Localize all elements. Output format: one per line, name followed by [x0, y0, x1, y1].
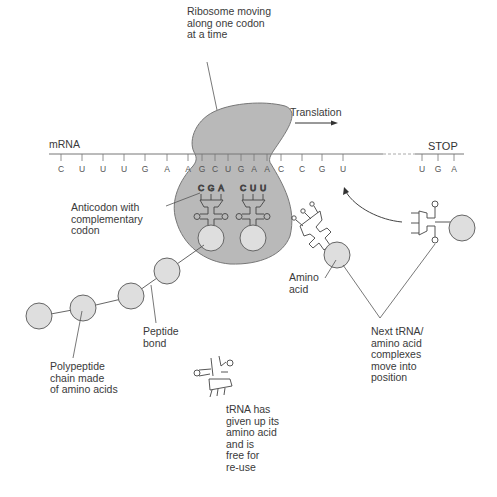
incoming-amino-acid-1	[324, 242, 350, 268]
incoming-trna-tilted	[292, 202, 331, 250]
svg-text:A: A	[164, 164, 170, 174]
incoming-amino-acid-2	[449, 215, 475, 241]
anticodon-label: Anticodon with complementary codon	[71, 202, 143, 237]
next-trna-pointer-left	[343, 265, 380, 318]
svg-text:G: G	[208, 183, 215, 193]
ribosome-label: Ribosome moving along one codon at a tim…	[187, 6, 271, 41]
svg-text:U: U	[260, 183, 266, 193]
ribosome-pointer-line	[207, 62, 217, 110]
mrna-label: mRNA	[49, 139, 80, 151]
translation-diagram: C U U U G A A G C U G A A C C G U U G A …	[0, 0, 497, 497]
svg-text:A: A	[451, 164, 457, 174]
amino-acid-a-site	[240, 225, 266, 251]
movement-arrow	[346, 192, 402, 222]
next-trna-label: Next tRNA/ amino acid complexes move int…	[371, 326, 424, 384]
amino-acid-p-site	[198, 225, 224, 251]
svg-text:C: C	[278, 164, 284, 174]
polypeptide-chain	[26, 245, 204, 329]
ribosome-shape	[174, 103, 292, 264]
svg-text:U: U	[340, 164, 346, 174]
stop-label: STOP	[428, 140, 458, 152]
svg-text:C: C	[212, 164, 218, 174]
svg-text:G: G	[435, 164, 442, 174]
svg-text:G: G	[319, 164, 326, 174]
translation-label: Translation	[290, 107, 342, 119]
peptide-bond-pointer-line	[151, 285, 156, 323]
svg-text:A: A	[264, 164, 270, 174]
svg-text:C: C	[198, 183, 204, 193]
amino-acid-label: Amino acid	[289, 272, 319, 295]
peptide-bond-label: Peptide bond	[143, 326, 179, 349]
svg-text:C: C	[299, 164, 305, 174]
svg-text:G: G	[199, 164, 206, 174]
svg-text:A: A	[218, 183, 224, 193]
svg-text:U: U	[121, 164, 127, 174]
svg-text:U: U	[225, 164, 231, 174]
svg-text:C: C	[58, 164, 64, 174]
svg-text:U: U	[419, 164, 425, 174]
svg-text:A: A	[185, 164, 191, 174]
svg-text:U: U	[79, 164, 85, 174]
svg-text:U: U	[100, 164, 106, 174]
svg-text:G: G	[142, 164, 149, 174]
free-trna-label: tRNA has given up its amino acid and is …	[226, 404, 279, 473]
svg-text:C: C	[240, 183, 246, 193]
svg-text:A: A	[251, 164, 257, 174]
svg-text:U: U	[250, 183, 256, 193]
svg-text:G: G	[238, 164, 245, 174]
polypeptide-label: Polypeptide chain made of amino acids	[50, 361, 118, 396]
free-trna	[194, 356, 233, 397]
next-trna-pointer-right	[380, 244, 435, 318]
